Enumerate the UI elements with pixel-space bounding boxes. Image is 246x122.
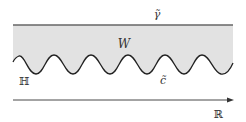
- arrowhead-icon: [227, 98, 234, 103]
- diagram-canvas: γ̃ W c̃ ℍ ℝ: [0, 0, 246, 122]
- label-gamma-tilde: γ̃: [154, 8, 161, 21]
- label-region-w: W: [118, 37, 132, 51]
- label-upper-half-plane: ℍ: [19, 75, 30, 88]
- label-real-line: ℝ: [213, 108, 223, 121]
- label-c-tilde: c̃: [160, 74, 167, 87]
